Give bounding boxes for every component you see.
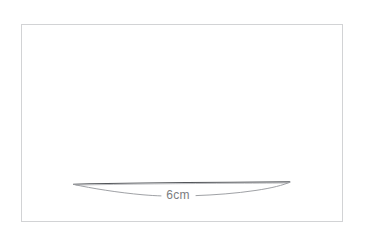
measurement-label: 6cm xyxy=(163,188,193,202)
sketch-canvas[interactable]: 6cm xyxy=(0,0,365,240)
